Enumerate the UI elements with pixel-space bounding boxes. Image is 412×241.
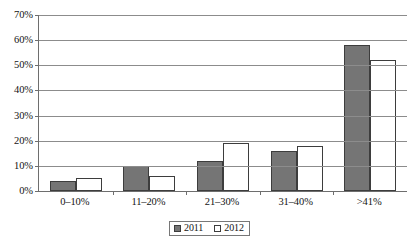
bar-chart: 0%10%20%30%40%50%60%70% 0–10%11–20%21–30… <box>0 0 412 241</box>
bar-group <box>260 15 334 191</box>
gridline <box>39 166 407 167</box>
bar-group <box>113 15 187 191</box>
bar-2011-1[interactable] <box>123 166 149 191</box>
legend-swatch-icon <box>214 225 221 232</box>
y-tick-label: 10% <box>14 161 33 171</box>
chart-legend: 20112012 <box>169 221 250 236</box>
x-tick-label: >41% <box>332 196 406 208</box>
y-tick-label: 40% <box>14 85 33 95</box>
y-tick-label: 20% <box>14 136 33 146</box>
bar-2011-4[interactable] <box>344 45 370 191</box>
y-tick-label: 30% <box>14 111 33 121</box>
y-tick-label: 70% <box>14 10 33 20</box>
plot-area <box>38 15 407 192</box>
bar-2012-0[interactable] <box>76 178 102 191</box>
x-tick-mark <box>113 191 114 195</box>
gridline <box>39 90 407 91</box>
bar-group <box>186 15 260 191</box>
legend-label: 2011 <box>184 223 203 233</box>
bar-2011-3[interactable] <box>271 151 297 191</box>
y-tick-mark <box>35 65 39 66</box>
bar-groups <box>39 15 407 191</box>
x-tick-mark <box>260 191 261 195</box>
legend-label: 2012 <box>224 223 244 233</box>
y-tick-mark <box>35 15 39 16</box>
legend-entry-2012[interactable]: 2012 <box>214 223 244 233</box>
bar-2012-3[interactable] <box>297 146 323 191</box>
y-axis: 0%10%20%30%40%50%60%70% <box>0 0 36 195</box>
bar-2012-4[interactable] <box>370 60 396 191</box>
legend-swatch-icon <box>174 225 181 232</box>
y-tick-mark <box>35 116 39 117</box>
legend-entry-2011[interactable]: 2011 <box>174 223 203 233</box>
x-tick-mark <box>333 191 334 195</box>
bar-group <box>39 15 113 191</box>
bar-2011-0[interactable] <box>50 181 76 191</box>
bar-2012-1[interactable] <box>149 176 175 191</box>
x-tick-label: 11–20% <box>112 196 186 208</box>
y-tick-mark <box>35 90 39 91</box>
gridline <box>39 15 407 16</box>
bar-group <box>333 15 407 191</box>
y-tick-label: 60% <box>14 35 33 45</box>
y-tick-mark <box>35 191 39 192</box>
x-tick-label: 21–30% <box>185 196 259 208</box>
gridline <box>39 40 407 41</box>
gridline <box>39 141 407 142</box>
x-tick-mark <box>186 191 187 195</box>
bar-2012-2[interactable] <box>223 143 249 191</box>
x-tick-label: 31–40% <box>259 196 333 208</box>
x-axis: 0–10%11–20%21–30%31–40%>41% <box>38 196 406 208</box>
gridline <box>39 116 407 117</box>
y-tick-label: 50% <box>14 60 33 70</box>
y-tick-mark <box>35 40 39 41</box>
x-tick-label: 0–10% <box>38 196 112 208</box>
y-tick-mark <box>35 166 39 167</box>
y-tick-label: 0% <box>19 186 33 196</box>
gridline <box>39 65 407 66</box>
y-tick-mark <box>35 141 39 142</box>
